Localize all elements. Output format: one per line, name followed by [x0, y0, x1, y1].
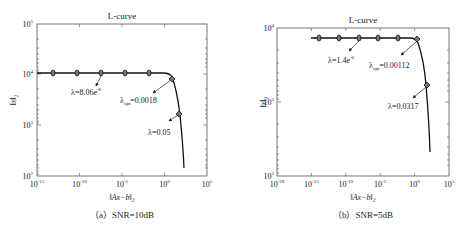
svg-text:105: 105 — [444, 179, 455, 189]
chart-a-annotation-lambda-3: λ=0.05 — [148, 128, 170, 137]
chart-b-caption: （b）SNR=5dB — [263, 208, 461, 221]
chart-a: L-curve 105 104 103 102 10-15 — [9, 11, 213, 202]
svg-text:100: 100 — [159, 179, 170, 189]
svg-text:10-15: 10-15 — [30, 179, 45, 189]
chart-a-y-ticks — [37, 39, 207, 174]
svg-text:104: 104 — [264, 23, 275, 33]
chart-b-y-ticks — [277, 50, 449, 173]
svg-text:10-5: 10-5 — [374, 179, 387, 189]
chart-a-xlabel: ‖Ax−b‖₂ — [109, 193, 134, 202]
chart-a-ylabel: ‖x‖₂ — [9, 94, 18, 105]
svg-text:10-10: 10-10 — [72, 179, 87, 189]
chart-b-annotation-lambda-1: λ=1.4e-6 — [328, 55, 355, 65]
svg-text:10-15: 10-15 — [304, 179, 319, 189]
svg-text:100: 100 — [409, 179, 420, 189]
chart-b-xlabel: ‖Ax−b‖₂ — [350, 193, 375, 202]
chart-b-x-tick-labels: 10-20 10-15 10-10 10-5 100 105 — [270, 179, 455, 189]
chart-a-title: L-curve — [108, 11, 136, 21]
chart-a-annotation-lambda-opt: λopt=0.0018 — [120, 96, 157, 106]
svg-text:10-10: 10-10 — [338, 179, 353, 189]
chart-a-caption: （a）SNR=10dB — [22, 208, 222, 221]
svg-text:105: 105 — [23, 19, 34, 29]
svg-text:103: 103 — [23, 120, 34, 130]
chart-b-ylabel: ‖x‖₂ — [259, 96, 268, 107]
chart-a-annotation-lambda-1: λ=8.06e-8 — [71, 87, 102, 97]
chart-b: L-curve 104 103 102 10-20 10-15 10-10 10… — [259, 15, 455, 202]
chart-b-annotation-lambda-3: λ=0.0317 — [388, 102, 418, 111]
svg-text:10-20: 10-20 — [270, 179, 285, 189]
chart-b-annotation-lambda-opt: λopt=0.00112 — [369, 61, 410, 71]
chart-b-plot-frame — [277, 28, 449, 176]
chart-a-x-tick-labels: 10-15 10-10 10-5 100 105 — [30, 179, 213, 189]
svg-text:104: 104 — [23, 69, 34, 79]
svg-text:105: 105 — [202, 179, 213, 189]
chart-b-title: L-curve — [349, 15, 377, 25]
chart-a-curve — [37, 73, 184, 168]
chart-a-y-tick-labels: 105 104 103 102 — [23, 19, 34, 181]
svg-text:10-5: 10-5 — [116, 179, 129, 189]
